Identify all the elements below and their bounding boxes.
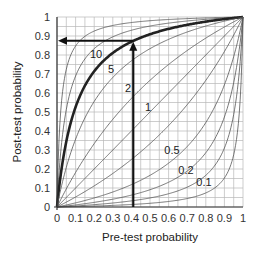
x-axis-ticks: 00.10.20.30.40.50.60.70.80.91 [54, 212, 246, 224]
x-tick-label: 0 [54, 212, 60, 224]
curve-label-2: 2 [125, 82, 131, 94]
x-tick-label: 0.8 [198, 212, 213, 224]
curve-label-10: 10 [90, 48, 102, 60]
arrow-left-icon [58, 37, 67, 45]
x-tick-label: 0.3 [105, 212, 120, 224]
x-tick-label: 0.5 [142, 212, 157, 224]
curve-label-0.1: 0.1 [196, 176, 211, 188]
x-tick-label: 0.9 [217, 212, 232, 224]
x-axis-label: Pre-test probability [102, 231, 198, 243]
y-tick-label: 0.5 [35, 106, 50, 118]
curve-labels: 105210.50.20.1 [90, 48, 212, 188]
x-tick-label: 0.1 [68, 212, 83, 224]
y-tick-label: 0.2 [35, 163, 50, 175]
x-tick-label: 0.4 [124, 212, 139, 224]
x-tick-label: 1 [240, 212, 246, 224]
y-axis-label: Post-test probability [11, 61, 23, 162]
y-tick-label: 0.6 [35, 87, 50, 99]
y-axis-ticks: 00.10.20.30.40.50.60.70.80.91 [35, 11, 50, 213]
x-tick-label: 0.2 [87, 212, 102, 224]
y-tick-label: 0.3 [35, 144, 50, 156]
y-tick-label: 0.1 [35, 182, 50, 194]
curve-label-0.5: 0.5 [164, 144, 179, 156]
likelihood-ratio-nomogram-chart: 00.10.20.30.40.50.60.70.80.91 00.10.20.3… [0, 0, 260, 263]
y-tick-label: 0.9 [35, 30, 50, 42]
y-tick-label: 0 [44, 201, 50, 213]
curve-label-0.2: 0.2 [178, 164, 193, 176]
x-tick-label: 0.6 [161, 212, 176, 224]
curve-label-5: 5 [108, 63, 114, 75]
x-tick-label: 0.7 [180, 212, 195, 224]
curve-label-1: 1 [145, 101, 151, 113]
y-tick-label: 1 [44, 11, 50, 23]
y-tick-label: 0.7 [35, 68, 50, 80]
y-tick-label: 0.4 [35, 125, 50, 137]
y-tick-label: 0.8 [35, 49, 50, 61]
